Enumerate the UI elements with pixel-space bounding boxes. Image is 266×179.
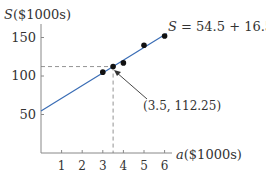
- data-point: [100, 69, 106, 75]
- y-tick-label: 150: [0, 31, 36, 44]
- annotation-arrow: [114, 70, 147, 99]
- x-tick-label: 5: [137, 160, 151, 172]
- y-axis-label: S($1000s): [4, 8, 71, 21]
- x-tick-label: 2: [75, 160, 89, 172]
- annotation-label: (3.5, 112.25): [143, 100, 221, 112]
- y-tick-label: 100: [0, 69, 36, 82]
- x-tick-label: 3: [96, 160, 110, 172]
- data-point: [110, 64, 116, 70]
- data-point: [162, 33, 168, 39]
- regression-equation-label: S = 54.5 + 16.5a: [168, 20, 266, 33]
- x-axis-label: a($1000s): [176, 148, 242, 161]
- x-tick-label: 1: [55, 160, 69, 172]
- data-point: [141, 42, 147, 48]
- data-point: [121, 60, 127, 66]
- x-tick-label: 6: [158, 160, 172, 172]
- y-tick-label: 50: [0, 108, 36, 121]
- x-tick-label: 4: [116, 160, 130, 172]
